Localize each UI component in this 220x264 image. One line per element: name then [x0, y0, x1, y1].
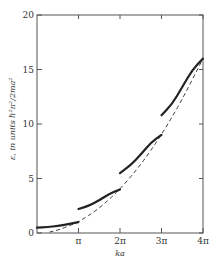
series-band-4 [162, 59, 204, 116]
x-tick-label: 3π [156, 236, 168, 246]
plot-frame [37, 15, 203, 233]
x-axis-label: ka [115, 249, 125, 258]
y-axis-label: ε, in units ℏ²π²/2ma² [8, 77, 17, 160]
series-band-2 [79, 189, 121, 209]
y-tick-label: 10 [23, 119, 35, 129]
y-tick-label: 5 [28, 174, 34, 184]
x-tick-label: π [76, 236, 82, 246]
series-free-electron [50, 59, 204, 232]
x-tick-label: 4π [197, 236, 209, 246]
series-band-3 [120, 135, 162, 173]
y-tick-label: 20 [23, 10, 35, 20]
y-tick-label: 0 [28, 228, 34, 238]
y-tick-label: 15 [23, 65, 35, 75]
x-tick-label: 2π [114, 236, 126, 246]
chart: π2π3π4π 05101520 ka ε, in units ℏ²π²/2ma… [0, 0, 220, 264]
